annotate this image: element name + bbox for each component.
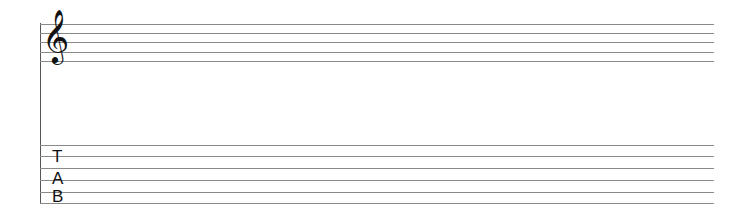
- tab-letter-t: T: [52, 148, 62, 165]
- tab-letter-b: B: [52, 188, 63, 205]
- tab-line: [40, 180, 714, 181]
- tab-line: [40, 203, 714, 204]
- staff-line: [40, 52, 714, 53]
- staff-line: [40, 33, 714, 34]
- staff-line: [40, 42, 714, 43]
- tab-line: [40, 168, 714, 169]
- system-left-barline: [40, 23, 41, 203]
- staff-line: [40, 24, 714, 25]
- tab-line: [40, 145, 714, 146]
- treble-clef-icon: 𝄞: [42, 13, 69, 59]
- staff-line: [40, 61, 714, 62]
- tab-line: [40, 156, 714, 157]
- tab-line: [40, 192, 714, 193]
- tab-letter-a: A: [52, 170, 63, 187]
